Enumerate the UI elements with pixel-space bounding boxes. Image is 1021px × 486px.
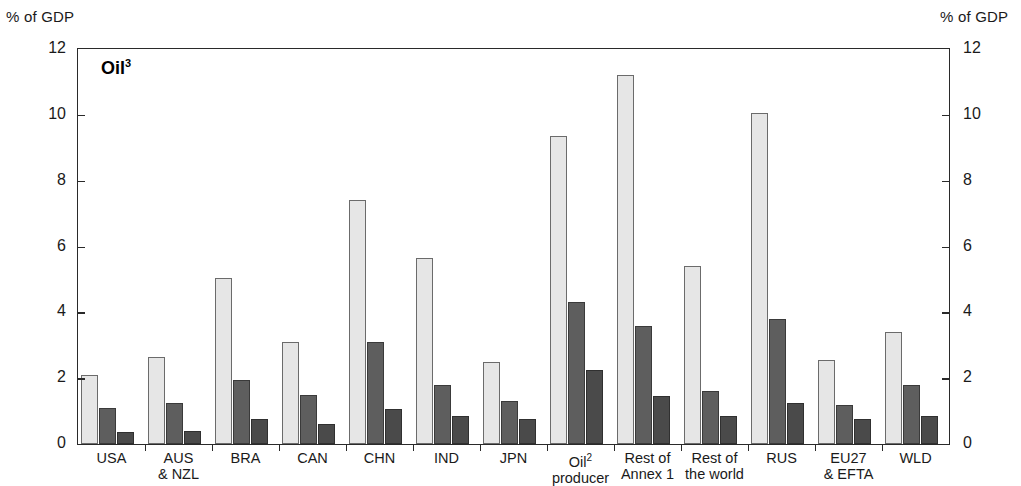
x-axis-label-line1: WLD [899, 450, 931, 466]
x-axis-label-line1: AUS [164, 450, 194, 466]
y-tick-label-left-8: 8 [4, 171, 66, 189]
bar [215, 278, 232, 444]
x-axis-label-line1: USA [97, 450, 127, 466]
x-axis-group-separator [145, 445, 146, 451]
bar [769, 319, 786, 444]
x-axis-label-line2: & EFTA [815, 466, 882, 482]
bar [885, 332, 902, 444]
x-axis-label-line1: RUS [766, 450, 797, 466]
bar [751, 113, 768, 444]
x-axis-label-line1: Oil [569, 454, 587, 470]
x-axis-label: Rest ofthe world [681, 450, 748, 482]
y-axis-unit-label-left: % of GDP [6, 8, 74, 25]
y-tick-mark-right-8 [942, 181, 949, 183]
bar [501, 401, 518, 444]
bar [550, 136, 567, 444]
y-tick-mark-right-2 [942, 378, 949, 380]
x-axis-group-separator [614, 445, 615, 451]
bar-group [483, 49, 536, 444]
y-tick-label-right-12: 12 [963, 39, 981, 57]
bar-group [148, 49, 201, 444]
bar [117, 432, 134, 444]
bar [349, 200, 366, 444]
x-axis-group-separator [346, 445, 347, 451]
x-axis-group-separator [413, 445, 414, 451]
bar [921, 416, 938, 444]
x-axis-label-line2: & NZL [145, 466, 212, 482]
bar [617, 75, 634, 444]
x-axis-label-line2: producer [547, 470, 614, 486]
y-tick-mark-left-8 [78, 181, 85, 183]
x-axis-label-line2: the world [681, 466, 748, 482]
bar-group [81, 49, 134, 444]
bar [251, 419, 268, 444]
bar [483, 362, 500, 444]
bar-group [416, 49, 469, 444]
bar [318, 424, 335, 444]
bar [702, 391, 719, 444]
bar [184, 431, 201, 444]
x-axis-label: WLD [882, 450, 949, 466]
bar [854, 419, 871, 444]
x-axis-label-line1: Rest of [692, 450, 738, 466]
x-axis-label-line2: Annex 1 [614, 466, 681, 482]
x-axis-label: JPN [480, 450, 547, 466]
bar-group [282, 49, 335, 444]
bar-group [751, 49, 804, 444]
x-axis-label-line1: JPN [500, 450, 527, 466]
y-tick-label-left-4: 4 [4, 302, 66, 320]
bar [452, 416, 469, 444]
bar [635, 326, 652, 445]
x-axis-label: BRA [212, 450, 279, 466]
x-axis-label-line1: CAN [297, 450, 328, 466]
bars-layer [78, 49, 949, 444]
bar [818, 360, 835, 444]
y-tick-label-right-4: 4 [963, 302, 972, 320]
x-axis-label-line1: BRA [231, 450, 261, 466]
y-tick-mark-left-4 [78, 312, 85, 314]
x-axis-group-separator [480, 445, 481, 451]
y-tick-label-left-0: 0 [4, 434, 66, 452]
y-tick-label-left-6: 6 [4, 237, 66, 255]
x-axis-label-line1: IND [434, 450, 459, 466]
y-tick-mark-right-10 [942, 115, 949, 117]
bar-group [215, 49, 268, 444]
bar [519, 419, 536, 444]
bar [434, 385, 451, 444]
x-axis-label: CAN [279, 450, 346, 466]
bar-group [617, 49, 670, 444]
y-tick-label-left-12: 12 [4, 39, 66, 57]
bar [684, 266, 701, 444]
bar [81, 375, 98, 444]
bar [282, 342, 299, 444]
bar [720, 416, 737, 444]
y-tick-label-right-10: 10 [963, 105, 981, 123]
bar [586, 370, 603, 444]
y-tick-label-left-10: 10 [4, 105, 66, 123]
y-tick-label-right-8: 8 [963, 171, 972, 189]
x-axis-label: CHN [346, 450, 413, 466]
bar [568, 302, 585, 444]
bar [99, 408, 116, 444]
x-axis-group-separator [815, 445, 816, 451]
y-tick-label-right-0: 0 [963, 434, 972, 452]
bar-group [684, 49, 737, 444]
x-axis-label-line1: Rest of [625, 450, 671, 466]
x-axis-label: USA [78, 450, 145, 466]
bar-group [885, 49, 938, 444]
y-tick-label-right-6: 6 [963, 237, 972, 255]
bar [148, 357, 165, 444]
bar-group [818, 49, 871, 444]
x-axis-label: AUS& NZL [145, 450, 212, 482]
y-tick-mark-left-6 [78, 247, 85, 249]
x-axis-group-separator [882, 445, 883, 451]
x-axis-group-separator [681, 445, 682, 451]
bar [787, 403, 804, 444]
x-axis-group-separator [279, 445, 280, 451]
x-axis-group-separator [748, 445, 749, 451]
y-tick-label-left-2: 2 [4, 368, 66, 386]
y-tick-mark-right-4 [942, 312, 949, 314]
bar [836, 405, 853, 445]
bar-group [349, 49, 402, 444]
